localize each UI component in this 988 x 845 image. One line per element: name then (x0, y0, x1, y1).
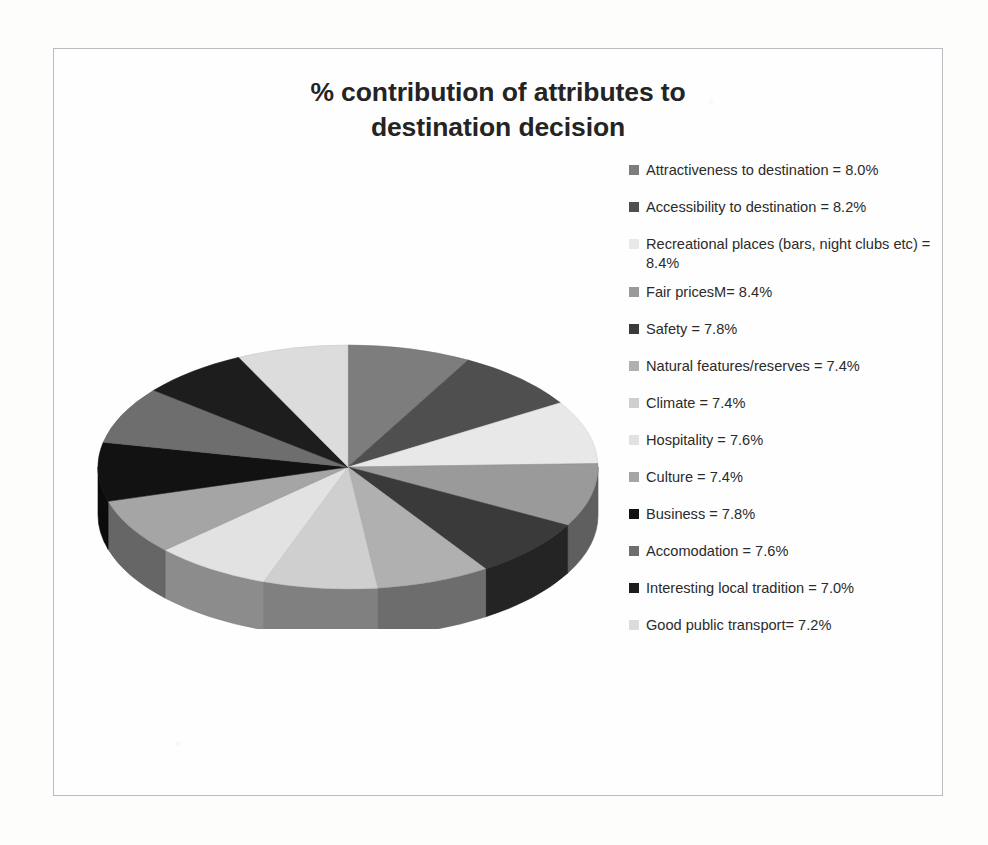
legend-item[interactable]: Climate = 7.4% (629, 394, 941, 413)
legend-item-label: Accessibility to destination = 8.2% (646, 198, 941, 217)
pie-plot-area (66, 299, 626, 679)
legend-item-label: Recreational places (bars, night clubs e… (646, 235, 941, 273)
chart-legend: Attractiveness to destination = 8.0%Acce… (629, 161, 941, 653)
legend-item-label: Safety = 7.8% (646, 320, 941, 339)
legend-item[interactable]: Natural features/reserves = 7.4% (629, 357, 941, 376)
chart-frame: % contribution of attributes to destinat… (53, 48, 943, 796)
legend-swatch-icon (629, 324, 639, 334)
pie-top-slices (98, 345, 598, 589)
legend-swatch-icon (629, 202, 639, 212)
legend-item-label: Climate = 7.4% (646, 394, 941, 413)
legend-item[interactable]: Culture = 7.4% (629, 468, 941, 487)
legend-item[interactable]: Hospitality = 7.6% (629, 431, 941, 450)
chart-title-line-2: destination decision (144, 110, 852, 145)
legend-swatch-icon (629, 509, 639, 519)
legend-swatch-icon (629, 583, 639, 593)
legend-item-label: Good public transport= 7.2% (646, 616, 941, 635)
legend-item-label: Business = 7.8% (646, 505, 941, 524)
pie-chart-3d (90, 319, 624, 629)
legend-item[interactable]: Interesting local tradition = 7.0% (629, 579, 941, 598)
legend-swatch-icon (629, 546, 639, 556)
legend-item[interactable]: Recreational places (bars, night clubs e… (629, 235, 941, 273)
legend-item-label: Accomodation = 7.6% (646, 542, 941, 561)
legend-swatch-icon (629, 287, 639, 297)
legend-item[interactable]: Fair pricesM= 8.4% (629, 283, 941, 302)
legend-item[interactable]: Accessibility to destination = 8.2% (629, 198, 941, 217)
legend-item-label: Culture = 7.4% (646, 468, 941, 487)
legend-item-label: Fair pricesM= 8.4% (646, 283, 941, 302)
legend-item[interactable]: Safety = 7.8% (629, 320, 941, 339)
legend-swatch-icon (629, 398, 639, 408)
legend-item-label: Interesting local tradition = 7.0% (646, 579, 941, 598)
chart-title-line-1: % contribution of attributes to (144, 75, 852, 110)
legend-swatch-icon (629, 620, 639, 630)
legend-item-label: Attractiveness to destination = 8.0% (646, 161, 941, 180)
legend-item[interactable]: Attractiveness to destination = 8.0% (629, 161, 941, 180)
legend-swatch-icon (629, 472, 639, 482)
legend-swatch-icon (629, 165, 639, 175)
legend-swatch-icon (629, 239, 639, 249)
legend-swatch-icon (629, 435, 639, 445)
legend-item[interactable]: Business = 7.8% (629, 505, 941, 524)
legend-item[interactable]: Accomodation = 7.6% (629, 542, 941, 561)
legend-item-label: Hospitality = 7.6% (646, 431, 941, 450)
legend-item[interactable]: Good public transport= 7.2% (629, 616, 941, 635)
chart-title: % contribution of attributes to destinat… (54, 75, 942, 145)
legend-item-label: Natural features/reserves = 7.4% (646, 357, 941, 376)
legend-swatch-icon (629, 361, 639, 371)
pie-chart-svg (90, 319, 624, 629)
